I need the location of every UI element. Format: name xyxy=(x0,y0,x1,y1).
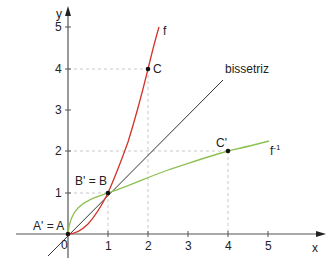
y-tick-4: 4 xyxy=(55,62,62,76)
x-tick-1: 1 xyxy=(105,239,112,253)
axis-ticks xyxy=(65,27,268,237)
point-C xyxy=(146,67,151,72)
bisector-line xyxy=(48,80,223,256)
bisector-label: bissetriz xyxy=(225,62,269,76)
point-A xyxy=(66,232,71,237)
x-tick-5: 5 xyxy=(265,239,272,253)
x-tick-3: 3 xyxy=(185,239,192,253)
point-A-label: A' = A xyxy=(33,219,64,233)
f-label: f xyxy=(163,24,167,38)
y-tick-1: 1 xyxy=(55,186,62,200)
point-C-label: C xyxy=(153,62,162,76)
guide-lines xyxy=(68,69,228,234)
y-tick-2: 2 xyxy=(55,144,62,158)
y-axis-label: y xyxy=(56,7,62,21)
f-curve xyxy=(68,27,159,234)
origin-label: 0 xyxy=(61,238,68,252)
x-axis-label: x xyxy=(312,241,318,255)
point-B-label: B' = B xyxy=(75,174,107,188)
x-tick-4: 4 xyxy=(225,239,232,253)
point-C-prime-label: C' xyxy=(216,136,227,150)
y-tick-3: 3 xyxy=(55,103,62,117)
function-inverse-chart: y x 5 4 3 2 1 0 1 2 3 4 5 f C bissetriz … xyxy=(0,0,336,268)
y-tick-5: 5 xyxy=(55,20,62,34)
x-tick-2: 2 xyxy=(145,239,152,253)
f-inverse-label: f-1 xyxy=(270,143,281,158)
point-B xyxy=(106,191,111,196)
